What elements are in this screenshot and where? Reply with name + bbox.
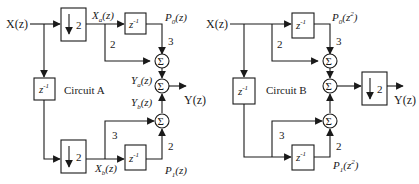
svg-text:Ya(z): Ya(z) xyxy=(131,74,153,89)
svg-text:Xa(z): Xa(z) xyxy=(91,9,114,24)
circuit-b-input-label: X(z) xyxy=(206,17,228,31)
svg-text:Yb(z): Yb(z) xyxy=(131,96,153,111)
circuit-b-delay-left: z-1 xyxy=(233,78,255,104)
circuit-b-downsampler: 2 xyxy=(362,72,387,105)
circuit-b-delay-bottom: z-1 xyxy=(292,145,314,170)
circuit-a: X(z) 2 z-1 Circuit A 2 Xa(z) xyxy=(6,8,206,179)
svg-text:2: 2 xyxy=(76,151,82,163)
svg-text:P1(z): P1(z) xyxy=(164,164,187,179)
circuit-a-delay-top: z-1 xyxy=(125,13,146,34)
circuit-a-delay-bottom: z-1 xyxy=(125,145,146,170)
circuit-b-title: Circuit B xyxy=(266,84,307,96)
circuit-b: X(z) 2 z-1 P0(z2) 3 Σ Σ 2 xyxy=(206,10,416,174)
circuit-a-sum-output: Σ xyxy=(155,79,169,93)
svg-text:P0(z): P0(z) xyxy=(164,11,187,26)
circuit-a-gain-bottom-delayed: 2 xyxy=(168,140,174,152)
circuit-b-sum-top: Σ xyxy=(323,54,337,68)
svg-text:Σ: Σ xyxy=(326,115,332,127)
circuit-a-downsampler-top: 2 xyxy=(61,8,86,41)
svg-text:2: 2 xyxy=(76,19,82,31)
svg-text:2: 2 xyxy=(377,83,383,95)
circuit-a-downsampler-bottom: 2 xyxy=(61,140,86,173)
circuit-a-lower-wire xyxy=(44,100,60,159)
svg-text:Σ: Σ xyxy=(158,80,164,92)
circuit-b-gain-top-direct: 2 xyxy=(277,38,283,50)
circuit-b-delay-top: z-1 xyxy=(292,13,314,38)
circuit-b-sum-bottom: Σ xyxy=(323,114,337,128)
svg-text:P0(z2): P0(z2) xyxy=(331,10,358,26)
circuit-a-input-label: X(z) xyxy=(6,17,28,31)
circuit-a-gain-bottom-direct: 3 xyxy=(112,129,118,141)
svg-text:Xb(z): Xb(z) xyxy=(94,162,117,177)
circuit-a-delay-left: z-1 xyxy=(34,78,55,100)
svg-text:Σ: Σ xyxy=(326,55,332,67)
circuit-a-output-label: Y(z) xyxy=(184,93,206,107)
svg-text:P1(z2): P1(z2) xyxy=(332,158,359,174)
circuit-b-output-label: Y(z) xyxy=(394,93,416,107)
circuit-a-gain-top-direct: 2 xyxy=(110,38,116,50)
multirate-diagram: X(z) 2 z-1 Circuit A 2 Xa(z) xyxy=(0,0,419,184)
circuit-a-title: Circuit A xyxy=(64,84,105,96)
circuit-b-gain-top-delayed: 3 xyxy=(336,35,342,47)
circuit-b-gain-bottom-direct: 3 xyxy=(279,129,285,141)
circuit-b-gain-bottom-delayed: 2 xyxy=(336,140,342,152)
svg-text:Σ: Σ xyxy=(326,80,332,92)
svg-text:Σ: Σ xyxy=(158,115,164,127)
circuit-a-sum-top: Σ xyxy=(155,54,169,68)
circuit-b-sum-output: Σ xyxy=(323,79,337,93)
svg-text:Σ: Σ xyxy=(158,55,164,67)
circuit-a-sum-bottom: Σ xyxy=(155,114,169,128)
circuit-a-gain-top-delayed: 3 xyxy=(168,35,174,47)
